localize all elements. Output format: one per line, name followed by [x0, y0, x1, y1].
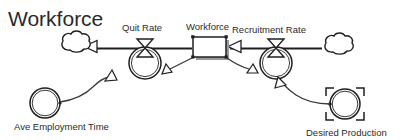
- stock-handle-tl[interactable]: [191, 35, 194, 38]
- connector-workforce-to-quit-rate[interactable]: [162, 58, 192, 74]
- connector-desired-production-to-recruitment-rate[interactable]: [275, 77, 330, 104]
- page-title: Workforce: [8, 7, 103, 30]
- recruitment-rate-valve-icon: [268, 39, 284, 48]
- stock-handle-tr[interactable]: [225, 35, 228, 38]
- variable-label-ave-employment-time: Ave Employment Time: [14, 121, 109, 132]
- connector-workforce-to-recruitment-rate[interactable]: [227, 58, 258, 73]
- stock-flow-diagram: Workforce: [0, 0, 403, 140]
- diagram-canvas: Workforce: [0, 0, 403, 140]
- cloud-sink[interactable]: [62, 31, 90, 52]
- flow-valve-quit-rate[interactable]: [129, 39, 161, 79]
- connector-ave-employment-to-quit-rate[interactable]: [60, 70, 117, 102]
- connector-arrowhead-quit: [105, 70, 117, 81]
- flow-label-recruitment-rate: Recruitment Rate: [232, 24, 306, 35]
- variable-ave-employment-time[interactable]: [30, 88, 62, 118]
- stock-box-workforce[interactable]: [191, 35, 229, 60]
- recruitment-flow-arrowhead: [228, 41, 241, 53]
- flow-valve-recruitment-rate[interactable]: [260, 39, 292, 79]
- stock-label-workforce: Workforce: [186, 21, 229, 32]
- flow-label-quit-rate: Quit Rate: [122, 22, 162, 33]
- quit-rate-valve-icon: [137, 39, 153, 48]
- variable-label-desired-production: Desired Production: [306, 127, 387, 138]
- variable-desired-production[interactable]: [326, 88, 364, 120]
- cloud-source[interactable]: [325, 33, 353, 54]
